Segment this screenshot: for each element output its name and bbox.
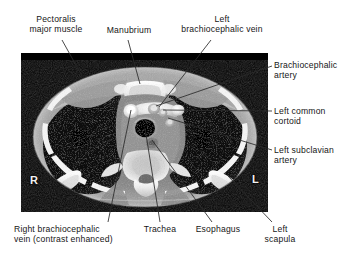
- label-brachiocephalic-artery: Brachiocephalic artery: [274, 60, 358, 81]
- label-trachea: Trachea: [136, 224, 184, 234]
- ct-axial-slice: [21, 53, 268, 212]
- label-left-subclavian-artery: Left subclavian artery: [274, 145, 358, 166]
- label-manubrium: Manubrium: [98, 25, 160, 35]
- orientation-marker-right: R: [30, 175, 38, 186]
- label-left-scapula: Left scapula: [256, 224, 304, 245]
- label-esophagus: Esophagus: [188, 224, 248, 234]
- label-pectoralis-major-muscle: Pectoralis major muscle: [14, 14, 98, 35]
- ct-figure: R L Pectoralis major muscle Manubrium Le…: [0, 0, 360, 263]
- label-left-common-carotid: Left common cortoid: [274, 106, 358, 127]
- orientation-marker-left: L: [252, 174, 259, 185]
- ct-image-panel: R L: [21, 53, 268, 212]
- label-left-brachiocephalic-vein: Left brachiocephalic vein: [166, 14, 278, 35]
